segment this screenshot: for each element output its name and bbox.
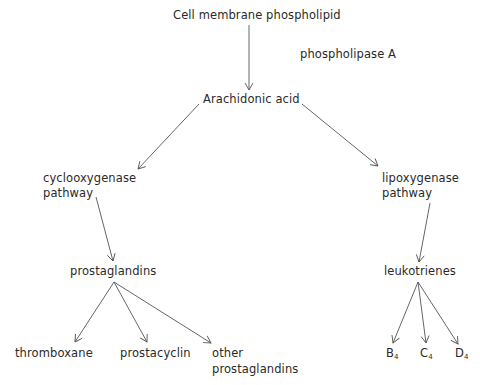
arrow-lox-to-leukotrienes — [419, 203, 430, 262]
node-leukotrienes: leukotrienes — [384, 263, 456, 279]
d4-letter: D — [455, 346, 464, 360]
c4-subscript: 4 — [428, 353, 433, 361]
arrow-prostaglandins-to-other — [114, 282, 211, 343]
node-other-prostaglandins-line2: prostaglandins — [212, 361, 298, 377]
b4-subscript: 4 — [394, 353, 399, 361]
node-b4: B4 — [386, 345, 399, 365]
arrow-arachidonic-to-cox — [138, 104, 199, 169]
arrow-prostaglandins-to-thromboxane — [75, 282, 114, 342]
arrow-leukotrienes-to-b4 — [393, 282, 418, 343]
b4-letter: B — [386, 346, 394, 360]
d4-subscript: 4 — [464, 353, 469, 361]
enzyme-phospholipase-a: phospholipase A — [300, 46, 396, 62]
node-arachidonic-acid: Arachidonic acid — [203, 91, 300, 107]
node-thromboxane: thromboxane — [15, 345, 93, 361]
node-cyclooxygenase-pathway-line1: cyclooxygenase — [43, 170, 136, 186]
node-lipoxygenase-pathway-line2: pathway — [382, 185, 432, 201]
node-cyclooxygenase-pathway-line2: pathway — [43, 185, 93, 201]
arrow-arachidonic-to-lox — [302, 104, 378, 166]
c4-letter: C — [420, 346, 428, 360]
arrow-leukotrienes-to-d4 — [418, 282, 458, 344]
arrow-leukotrienes-to-c4 — [418, 282, 426, 343]
node-prostacyclin: prostacyclin — [120, 345, 191, 361]
arrow-prostaglandins-to-prostacyclin — [114, 282, 147, 342]
node-prostaglandins: prostaglandins — [70, 263, 156, 279]
node-cell-membrane-phospholipid: Cell membrane phospholipid — [173, 7, 341, 23]
node-d4: D4 — [455, 345, 469, 365]
node-c4: C4 — [420, 345, 433, 365]
arrow-cox-to-prostaglandins — [96, 197, 113, 261]
node-lipoxygenase-pathway-line1: lipoxygenase — [382, 170, 459, 186]
node-other-prostaglandins-line1: other — [212, 345, 243, 361]
